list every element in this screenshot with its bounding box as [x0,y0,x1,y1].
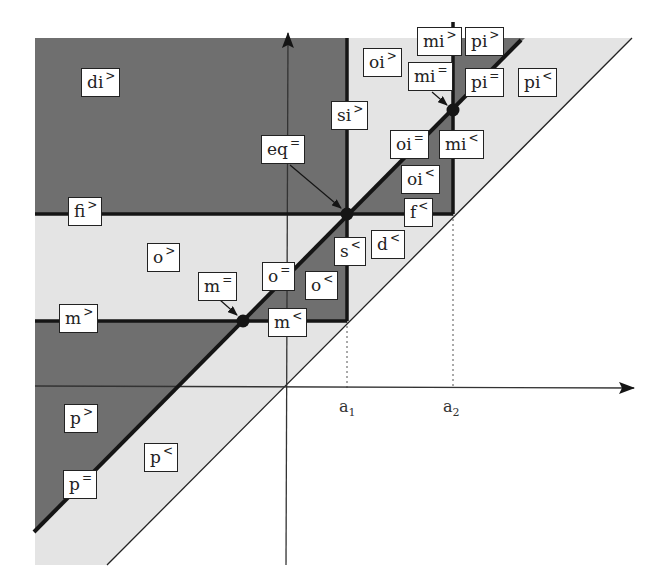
label-o-lt: o< [305,271,338,300]
label-pi-gt: pi> [465,27,504,56]
label-pi-lt: pi< [518,68,557,97]
dark-region-di [35,38,347,214]
label-oi-gt: oi> [363,48,402,77]
mi-point [447,104,460,117]
eq-point [341,208,354,221]
label-mi-gt: mi> [417,27,462,56]
label-o-eq: o= [262,262,295,291]
label-oi-lt: oi< [401,165,440,194]
label-mi-eq: mi= [408,62,453,91]
label-p-lt: p< [144,443,178,472]
tick-label-a1: a1 [339,397,356,419]
label-o-gt: o> [147,243,180,272]
label-fi-gt: fi> [68,197,102,226]
label-pi-eq: pi= [465,68,504,97]
label-s-lt: s< [334,237,366,266]
label-eq-eq: eq= [261,135,305,164]
label-m-lt: m< [268,308,307,337]
label-p-gt: p> [64,404,98,433]
label-si-gt: si> [331,101,368,130]
label-di-gt: di> [81,68,120,97]
label-m-eq: m= [198,272,237,301]
tick-label-a2: a2 [443,397,460,419]
label-mi-lt: mi< [439,130,484,159]
label-p-eq: p= [63,470,97,499]
label-oi-eq: oi= [390,130,429,159]
label-f-lt: f< [404,198,433,227]
label-m-gt: m> [59,304,98,333]
label-d-lt: d< [371,230,405,259]
m-point [237,315,250,328]
